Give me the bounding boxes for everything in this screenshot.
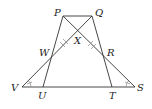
segment-vq <box>22 16 92 87</box>
label-x: X <box>73 35 82 46</box>
label-t: T <box>109 90 117 101</box>
geometry-diagram: P Q X W R V S U T <box>0 0 152 109</box>
label-p: P <box>53 7 61 18</box>
tick-marks-wx <box>60 39 68 47</box>
label-s: S <box>137 82 144 93</box>
segment-ps <box>63 16 135 87</box>
label-v: V <box>11 82 20 93</box>
label-u: U <box>38 90 47 101</box>
label-q: Q <box>95 7 103 18</box>
label-w: W <box>39 47 50 58</box>
label-r: R <box>106 47 115 58</box>
